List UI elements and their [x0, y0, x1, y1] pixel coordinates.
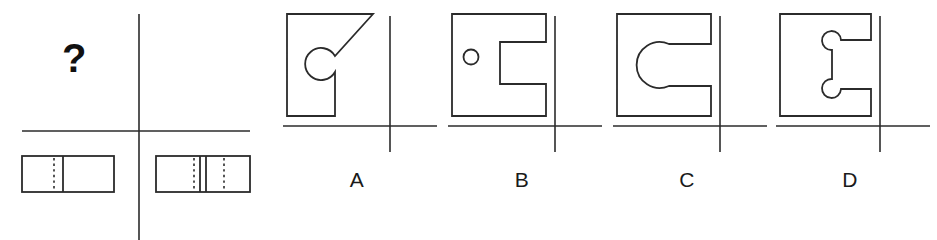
side-view-right: [156, 156, 250, 192]
option-c-drawing: [607, 0, 767, 165]
option-a-shape: [287, 14, 373, 116]
option-b-drawing: [442, 0, 602, 165]
question-drawing: [0, 0, 280, 240]
front-view-left: [22, 156, 114, 192]
option-d-shape: [780, 14, 871, 116]
option-b-hole: [464, 50, 479, 65]
side-view-outline: [156, 156, 250, 192]
question-panel: ?: [0, 0, 280, 240]
projection-puzzle-root: ?: [0, 0, 937, 240]
option-d-drawing: [770, 0, 930, 165]
front-view-outline: [22, 156, 114, 192]
option-panel-b[interactable]: B: [442, 0, 602, 240]
option-panel-a[interactable]: A: [277, 0, 437, 240]
option-label-a: A: [277, 168, 437, 192]
option-label-b: B: [442, 168, 602, 192]
option-label-d: D: [770, 168, 930, 192]
option-b-shape: [452, 14, 546, 116]
option-a-drawing: [277, 0, 437, 165]
projection-axis: [22, 14, 250, 240]
option-panel-c[interactable]: C: [607, 0, 767, 240]
option-c-shape: [617, 14, 711, 116]
option-label-c: C: [607, 168, 767, 192]
option-panel-d[interactable]: D: [770, 0, 930, 240]
